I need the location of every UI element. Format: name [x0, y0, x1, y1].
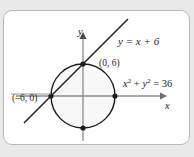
- x-axis-arrow-icon: [160, 92, 167, 99]
- point-marker-0-6: [80, 61, 85, 66]
- point-marker-6-0: [112, 93, 117, 98]
- point-label-neg6-0: (–6, 0): [12, 94, 37, 104]
- point-marker-0-neg6: [80, 125, 85, 130]
- x-axis-label: x: [165, 101, 170, 112]
- point-label-0-6: (0, 6): [99, 59, 120, 69]
- screenshot-background: y = x + 6 (0, 6) (–6, 0) x2 + y2 = 36 x …: [0, 0, 194, 157]
- line-equation-label: y = x + 6: [118, 36, 159, 47]
- circle-equation-label: x2 + y2 = 36: [123, 79, 172, 90]
- y-axis-label: y: [78, 27, 83, 38]
- figure-card: y = x + 6 (0, 6) (–6, 0) x2 + y2 = 36 x …: [3, 10, 190, 145]
